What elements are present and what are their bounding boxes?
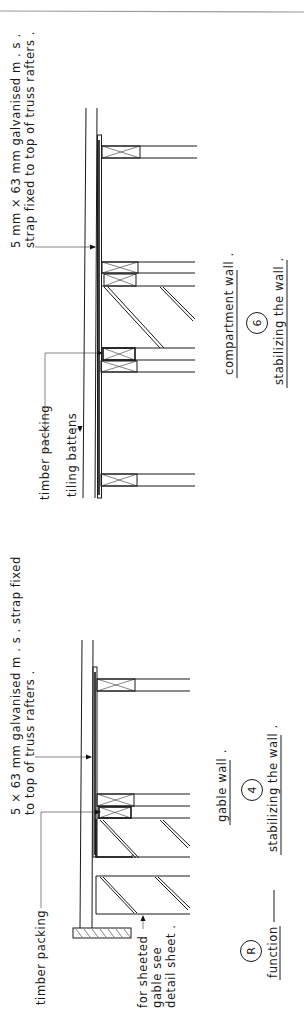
top-timber-packing-label: timber packing — [38, 405, 52, 500]
top-strap-note-line1: 5 mm × 63 mm galvanised m . s . — [9, 33, 23, 248]
compartment-wall-detail — [35, 108, 197, 498]
sheeted-gable-note-line2: gable see — [150, 947, 164, 1008]
legend-function-label: function — [266, 926, 280, 978]
bottom-timber-packing-label: timber packing — [34, 910, 48, 1005]
gable-wall-label: gable wall . — [215, 749, 229, 822]
top-caption: stabilizing the wall . — [272, 257, 286, 385]
construction-drawing: 5 mm × 63 mm galvanised m . s . strap fi… — [0, 0, 304, 1018]
gable-wall-detail — [35, 640, 190, 938]
compartment-wall-label: compartment wall . — [222, 252, 236, 375]
bottom-strap-note-line2: to top of truss rafters . — [23, 670, 37, 815]
top-tiling-battens-label: tiling battens — [65, 413, 79, 497]
detail-number-4: 4 — [246, 787, 259, 794]
legend-symbol: R — [245, 947, 258, 955]
sheeted-gable-note-line1: for sheeted — [136, 936, 150, 1008]
sheeted-gable-note-line3: detail sheet . — [164, 924, 178, 1008]
page-separator — [0, 11, 304, 12]
bottom-strap-note-line1: 5 × 63 mm galvanised m . s . strap fixed — [9, 556, 23, 815]
bottom-caption: stabilizing the wall . — [266, 724, 280, 852]
top-strap-note-line2: strap fixed to top of truss rafters . — [23, 31, 37, 248]
detail-number-6: 6 — [251, 320, 264, 327]
